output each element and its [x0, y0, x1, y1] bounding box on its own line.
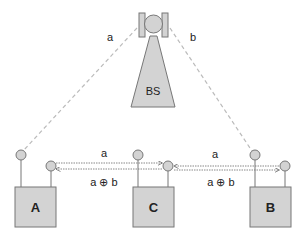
bs-link-a-label: a	[107, 31, 114, 43]
node-c-label: C	[149, 200, 159, 215]
node-a-antenna-right	[46, 161, 56, 171]
link-cb-top-label: a	[212, 148, 219, 160]
node-a: A	[15, 150, 56, 227]
bs-label: BS	[146, 85, 161, 97]
link-ac-top-label: a	[101, 147, 108, 159]
node-a-label: A	[31, 200, 41, 215]
node-b-antenna-left	[250, 150, 260, 160]
link-cb-bottom-label: a ⊕ b	[207, 176, 234, 188]
node-c-antenna-right	[163, 161, 173, 171]
node-c-antenna-left	[133, 150, 143, 160]
node-b-antenna-right	[280, 161, 290, 171]
bs-link-a	[23, 28, 137, 151]
bs-head	[145, 15, 163, 33]
node-b: B	[250, 150, 291, 227]
node-b-label: B	[266, 200, 275, 215]
bs-link-b-label: b	[190, 31, 196, 43]
node-a-antenna-left	[16, 150, 26, 160]
node-c: C	[133, 150, 174, 227]
base-station: BS	[131, 13, 175, 107]
diagram-canvas: a b BS a a ⊕ b a a ⊕ b A C	[0, 0, 305, 238]
bs-link-b	[170, 28, 252, 151]
link-ac-bottom-label: a ⊕ b	[90, 176, 117, 188]
